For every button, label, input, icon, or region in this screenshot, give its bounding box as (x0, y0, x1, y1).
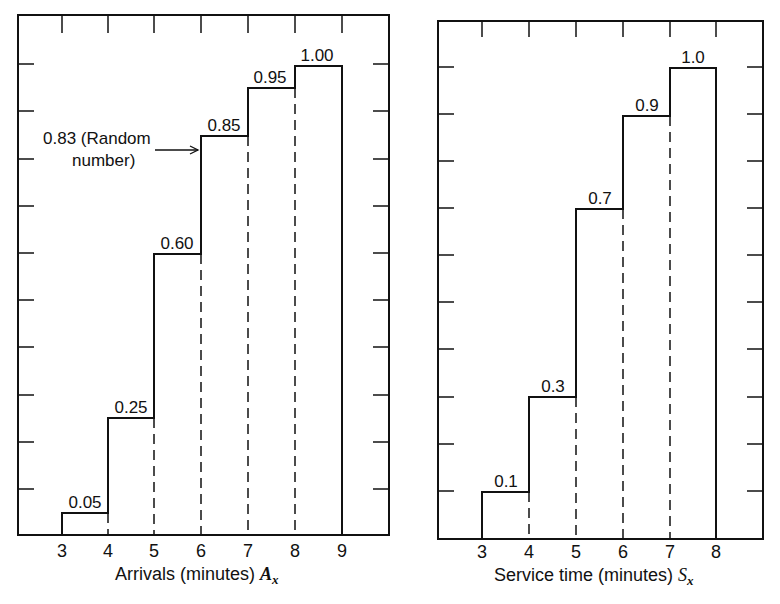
service-x-tick-labels: 3 4 5 6 7 8 (477, 542, 721, 562)
x-tick-label: 4 (524, 542, 534, 562)
service-side-ticks (438, 67, 763, 491)
annotation-line-2: number) (72, 151, 135, 170)
arrivals-side-ticks (18, 64, 389, 489)
x-tick-label: 9 (337, 541, 347, 561)
service-chart (438, 21, 763, 539)
x-tick-label: 3 (477, 542, 487, 562)
service-top-ticks (482, 21, 716, 37)
step-label: 0.85 (207, 116, 240, 135)
service-frame (438, 21, 763, 539)
step-label: 0.95 (253, 68, 286, 87)
service-step-labels: 0.1 0.3 0.7 0.9 1.0 (494, 48, 705, 491)
step-label: 0.9 (635, 96, 659, 115)
x-tick-label: 7 (243, 541, 253, 561)
random-number-arrow-icon (155, 146, 198, 154)
step-label: 1.0 (681, 48, 705, 67)
arrivals-top-ticks (62, 15, 342, 33)
step-label: 0.3 (541, 377, 565, 396)
step-label: 0.25 (114, 398, 147, 417)
x-tick-label: 7 (665, 542, 675, 562)
arrivals-frame (18, 15, 389, 535)
arrivals-chart (18, 15, 389, 535)
x-tick-label: 6 (196, 541, 206, 561)
step-label: 0.1 (494, 472, 518, 491)
annotation-line-1: 0.83 (Random (43, 129, 151, 148)
step-label: 0.7 (588, 189, 612, 208)
service-x-axis-label: Service time (minutes) Sx (494, 565, 694, 588)
step-label: 0.60 (160, 234, 193, 253)
x-tick-label: 6 (618, 542, 628, 562)
arrivals-x-axis-label: Arrivals (minutes) Ax (115, 564, 279, 587)
random-number-annotation: 0.83 (Random number) (43, 129, 151, 170)
step-label: 0.05 (68, 493, 101, 512)
x-tick-label: 5 (571, 542, 581, 562)
figure: 0.05 0.25 0.60 0.85 0.95 1.00 0.83 (Rand… (0, 0, 780, 604)
x-tick-label: 3 (57, 541, 67, 561)
step-label: 1.00 (300, 46, 333, 65)
service-step-line (482, 68, 716, 539)
x-tick-label: 5 (149, 541, 159, 561)
service-dashed-lines (529, 116, 670, 539)
x-tick-label: 8 (711, 542, 721, 562)
x-tick-label: 8 (290, 541, 300, 561)
x-tick-label: 4 (103, 541, 113, 561)
arrivals-x-tick-labels: 3 4 5 6 7 8 9 (57, 541, 347, 561)
